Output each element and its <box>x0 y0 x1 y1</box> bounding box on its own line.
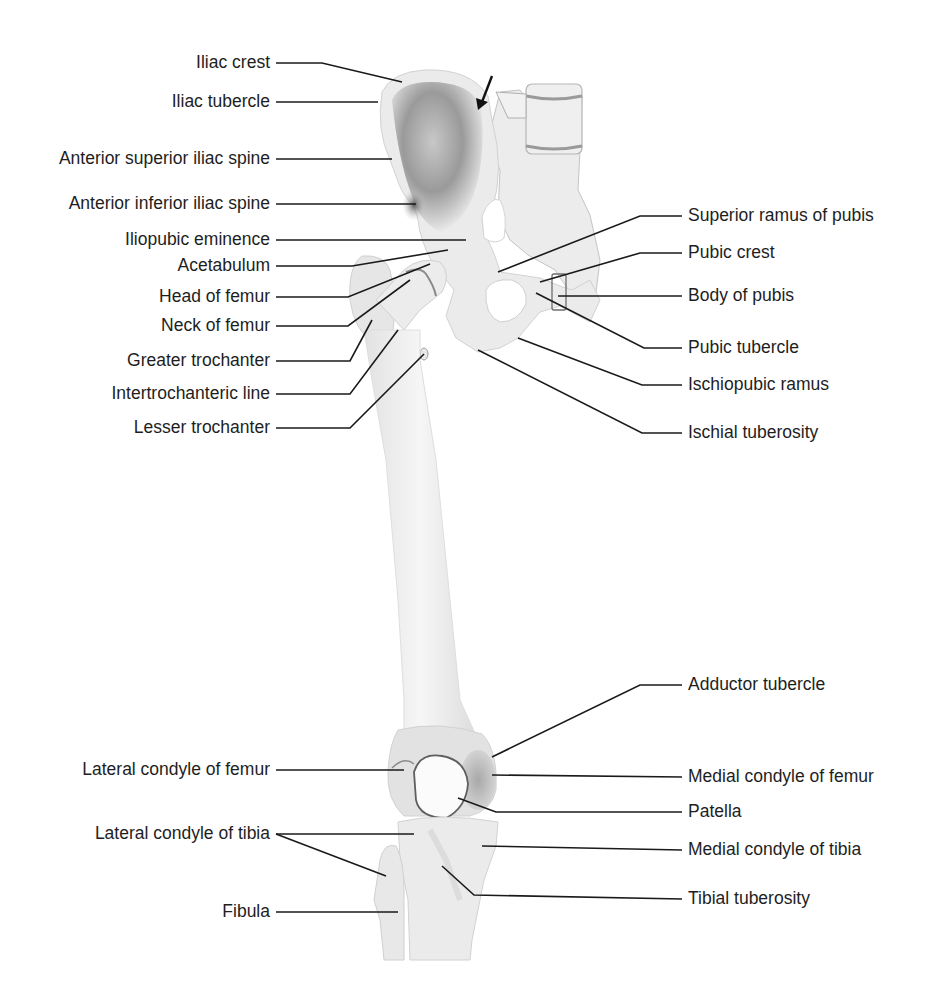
label-anterior-inferior-iliac-spine: Anterior inferior iliac spine <box>69 193 270 213</box>
label-pubic-tubercle: Pubic tubercle <box>688 337 799 357</box>
label-ischiopubic-ramus: Ischiopubic ramus <box>688 374 829 394</box>
leader-line <box>492 775 682 777</box>
label-head-of-femur: Head of femur <box>159 286 270 306</box>
label-superior-ramus-of-pubis: Superior ramus of pubis <box>688 205 874 225</box>
label-patella: Patella <box>688 801 742 821</box>
label-iliopubic-eminence: Iliopubic eminence <box>125 229 270 249</box>
label-lesser-trochanter: Lesser trochanter <box>134 417 270 437</box>
label-lateral-condyle-of-femur: Lateral condyle of femur <box>82 759 270 779</box>
anatomy-diagram: Iliac crestIliac tubercleAnterior superi… <box>0 0 952 995</box>
label-adductor-tubercle: Adductor tubercle <box>688 674 825 694</box>
label-intertrochanteric-line: Intertrochanteric line <box>111 383 270 403</box>
leader-line <box>482 846 682 850</box>
label-anterior-superior-iliac-spine: Anterior superior iliac spine <box>59 148 270 168</box>
leader-line <box>478 350 682 433</box>
label-ischial-tuberosity: Ischial tuberosity <box>688 422 818 442</box>
label-iliac-tubercle: Iliac tubercle <box>172 91 270 111</box>
label-acetabulum: Acetabulum <box>178 255 270 275</box>
label-iliac-crest: Iliac crest <box>196 52 270 72</box>
tibia <box>398 817 498 960</box>
label-medial-condyle-of-tibia: Medial condyle of tibia <box>688 839 861 859</box>
leader-line <box>276 834 386 876</box>
label-pubic-crest: Pubic crest <box>688 242 775 262</box>
label-fibula: Fibula <box>222 901 270 921</box>
leader-line <box>492 685 682 757</box>
label-medial-condyle-of-femur: Medial condyle of femur <box>688 766 874 786</box>
label-body-of-pubis: Body of pubis <box>688 285 794 305</box>
leader-line <box>518 338 682 385</box>
leader-line <box>276 63 402 82</box>
sacrum <box>488 84 600 300</box>
fibula <box>374 845 404 960</box>
label-lateral-condyle-of-tibia: Lateral condyle of tibia <box>95 823 270 843</box>
label-greater-trochanter: Greater trochanter <box>127 350 270 370</box>
label-neck-of-femur: Neck of femur <box>161 315 270 335</box>
label-tibial-tuberosity: Tibial tuberosity <box>688 888 810 908</box>
